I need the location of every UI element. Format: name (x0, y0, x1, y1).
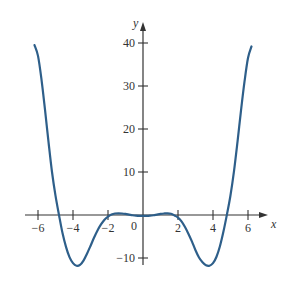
y-axis-arrow-icon (140, 22, 146, 31)
y-tick-label: 30 (123, 79, 135, 93)
x-tick-label: −6 (32, 221, 45, 235)
x-tick-label: −4 (67, 221, 80, 235)
tick-labels: −6−4−224640302010−100xy (32, 16, 277, 265)
y-tick-label: 40 (123, 36, 135, 50)
x-axis-arrow-icon (259, 212, 268, 218)
y-tick-label: 20 (123, 122, 135, 136)
chart: −6−4−224640302010−100xy (0, 0, 284, 287)
x-tick-label: 4 (210, 221, 216, 235)
x-tick-label: −2 (102, 221, 115, 235)
y-tick-label: −10 (116, 251, 135, 265)
y-axis-label: y (132, 16, 139, 30)
x-axis-label: x (270, 217, 277, 231)
x-tick-label: 2 (175, 221, 181, 235)
x-tick-label: 6 (245, 221, 251, 235)
origin-label: 0 (131, 219, 137, 233)
y-tick-label: 10 (123, 165, 135, 179)
